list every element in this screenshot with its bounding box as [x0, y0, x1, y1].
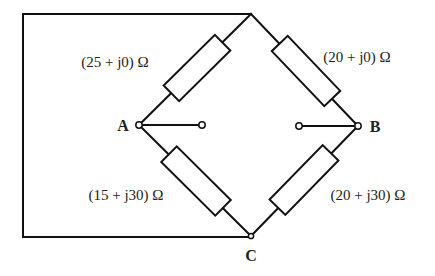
- impedance-label-top-left: (25 + j0) Ω: [81, 54, 149, 71]
- terminal-a-icon: [136, 122, 142, 128]
- terminal-a-open-icon: [199, 122, 205, 128]
- impedance-label-bottom-right: (20 + j30) Ω: [330, 187, 405, 204]
- resistor-top-left: [164, 35, 231, 101]
- resistor-bottom-right: [270, 145, 339, 215]
- impedance-label-top-right: (20 + j0) Ω: [323, 49, 391, 66]
- node-label-a: A: [117, 117, 129, 134]
- terminal-b-icon: [355, 123, 361, 129]
- bridge-circuit-diagram: (25 + j0) Ω (20 + j0) Ω (15 + j30) Ω (20…: [0, 0, 435, 276]
- node-label-c: C: [245, 247, 257, 264]
- impedance-label-bottom-left: (15 + j30) Ω: [88, 187, 163, 204]
- resistor-top-right: [272, 36, 340, 106]
- terminal-c-icon: [248, 233, 253, 238]
- terminal-b-open-icon: [296, 123, 302, 129]
- node-label-b: B: [370, 118, 381, 135]
- resistor-bottom-left: [161, 146, 230, 215]
